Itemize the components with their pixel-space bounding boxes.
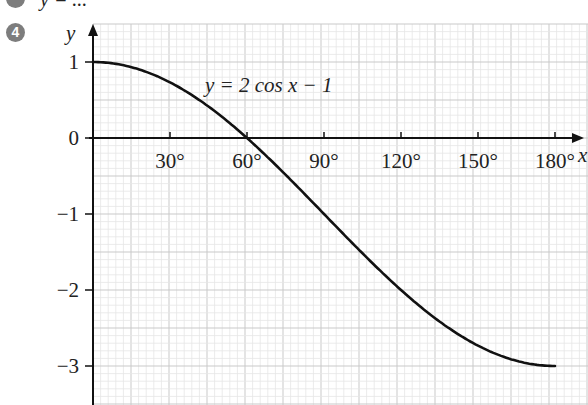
y-tick-label: 0 bbox=[69, 126, 80, 150]
x-tick-label: 90° bbox=[309, 149, 338, 173]
y-axis-label: y bbox=[64, 21, 76, 45]
y-tick-label: −2 bbox=[57, 278, 79, 302]
x-tick-label: 150° bbox=[458, 149, 498, 173]
y-tick-label: −3 bbox=[57, 354, 79, 378]
x-axis-arrow-icon bbox=[572, 133, 584, 143]
x-tick-label: 120° bbox=[381, 149, 421, 173]
y-tick-label: 1 bbox=[69, 50, 80, 74]
x-tick-label: 180° bbox=[535, 149, 575, 173]
x-axis-label: x bbox=[577, 143, 588, 167]
equation-label: y = 2 cos x − 1 bbox=[203, 73, 332, 97]
x-tick-label: 60° bbox=[232, 149, 261, 173]
x-tick-label: 30° bbox=[155, 149, 184, 173]
cosine-graph: 30°60°90°120°150°180°10−1−2−3 y = 2 cos … bbox=[0, 0, 588, 405]
y-tick-label: −1 bbox=[57, 202, 79, 226]
y-axis-arrow-icon bbox=[88, 24, 98, 36]
